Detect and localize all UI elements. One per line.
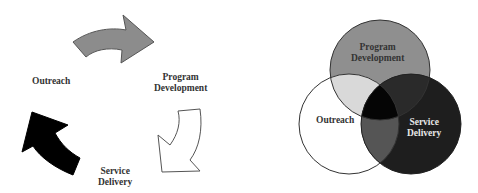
service-to-outreach-arrow (22, 112, 80, 175)
program-to-service-arrow (158, 109, 201, 172)
program-development-label: Program Development (154, 72, 207, 94)
cycle-diagram: Outreach Program Development Service Del… (0, 0, 240, 193)
venn-label-outreach: Outreach (316, 115, 354, 126)
venn-label-service-delivery: Service Delivery (407, 117, 441, 139)
venn-label-program-development: Program Development (351, 42, 404, 64)
service-delivery-label: Service Delivery (98, 166, 132, 188)
venn-diagram: Program Development Outreach Service Del… (240, 0, 478, 193)
outreach-label: Outreach (32, 76, 70, 87)
outreach-to-program-arrow (73, 15, 154, 63)
